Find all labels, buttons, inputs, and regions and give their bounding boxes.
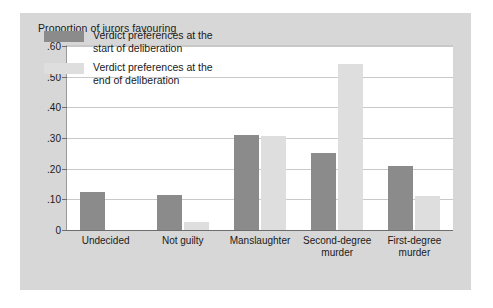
legend-item-start: Verdict preferences at the start of deli… [44, 29, 213, 54]
bar-end [261, 136, 286, 230]
y-axis-tick-mark [62, 230, 67, 231]
bar-start [80, 192, 105, 230]
bar-group: First-degree murder [376, 46, 453, 230]
bar-group: Second-degree murder [299, 46, 376, 230]
chart-panel: Proportion of jurors favouring 0.10.20.3… [20, 13, 471, 290]
bar-end [415, 196, 440, 230]
x-axis-category-label: Undecided [67, 235, 144, 247]
legend-label-start: Verdict preferences at the start of deli… [93, 29, 213, 54]
bar-start [234, 135, 259, 230]
y-axis-tick-label: 0 [55, 225, 61, 236]
y-axis-tick-label: .20 [47, 163, 61, 174]
legend-swatch-end-icon [44, 63, 84, 74]
x-axis-category-label: Second-degree murder [299, 235, 376, 258]
y-axis-tick-label: .10 [47, 194, 61, 205]
legend-item-end: Verdict preferences at the end of delibe… [44, 61, 213, 86]
bar-end [338, 64, 363, 230]
x-axis-category-label: Not guilty [144, 235, 221, 247]
gridline [67, 230, 453, 231]
bar-group: Manslaughter [221, 46, 298, 230]
bar-end [184, 222, 209, 230]
bar-start [388, 166, 413, 230]
x-axis-category-label: Manslaughter [221, 235, 298, 247]
bar-start [311, 153, 336, 230]
y-axis-tick-label: .40 [47, 102, 61, 113]
legend-label-end: Verdict preferences at the end of delibe… [93, 61, 213, 86]
chart-legend: Verdict preferences at the start of deli… [44, 29, 213, 93]
y-axis-tick-label: .30 [47, 133, 61, 144]
legend-swatch-start-icon [44, 31, 84, 42]
x-axis-category-label: First-degree murder [376, 235, 453, 258]
bar-start [157, 195, 182, 230]
